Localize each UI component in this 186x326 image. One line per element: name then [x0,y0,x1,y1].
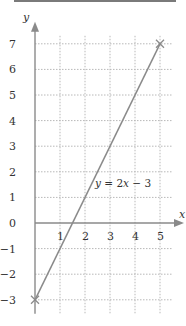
y-axis-arrow [31,22,39,32]
axes [31,22,184,314]
y-tick-label: 2 [9,166,16,179]
y-tick-label: 0 [9,217,16,230]
y-tick-label: −1 [0,243,16,256]
x-tick-label: 5 [157,230,164,243]
cross-marker [156,40,164,48]
y-tick-label: 1 [9,191,16,204]
y-tick-label: 5 [9,89,16,102]
y-tick-label: 4 [9,115,16,128]
y-tick-label: 6 [9,63,16,76]
y-tick-label: 7 [9,38,16,51]
x-tick-label: 4 [132,230,139,243]
equation-label: y = 2x − 3 [94,177,151,189]
y-tick-label: −3 [0,294,16,307]
equation-part: = 2 [101,177,123,189]
grid [35,36,172,314]
y-tick-label: −2 [0,268,16,281]
x-tick-label: 2 [82,230,89,243]
equation-part: − 3 [129,177,151,189]
tick-labels: 1234576543210−1−2−3 [0,38,164,307]
x-axis-label: x [179,208,186,221]
x-tick-label: 3 [107,230,114,243]
y-axis-label: y [22,11,30,24]
chart: 1234576543210−1−2−3 x y y = 2x − 3 [0,0,186,326]
y-tick-label: 3 [9,140,16,153]
